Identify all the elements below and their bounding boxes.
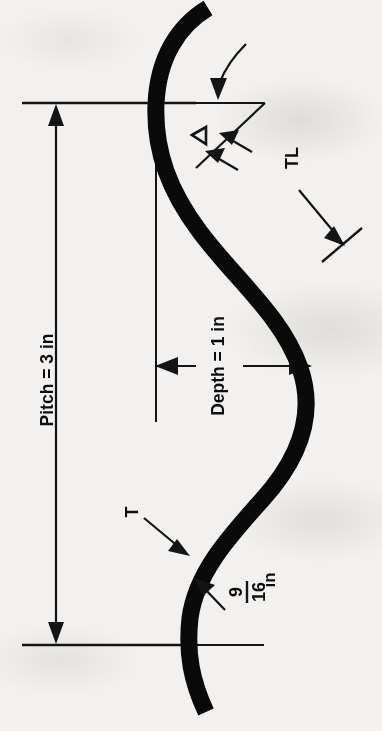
figure-root: Pitch = 3 in Depth = 1 in TL: [0, 0, 382, 731]
pitch-label: Pitch = 3 in: [37, 334, 57, 427]
thickness-label: T: [122, 507, 142, 518]
fraction-unit-label: in: [260, 572, 279, 587]
depth-label: Depth = 1 in: [208, 316, 228, 416]
corrugation-diagram-svg: Pitch = 3 in Depth = 1 in TL: [0, 0, 382, 731]
tl-label: TL: [282, 147, 302, 169]
fraction-numerator: 9: [226, 587, 246, 597]
